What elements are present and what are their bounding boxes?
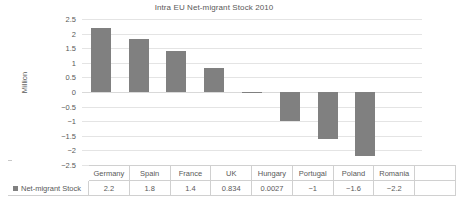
bar-slot: [309, 19, 347, 165]
bar[interactable]: [280, 92, 300, 121]
bar[interactable]: [166, 51, 186, 92]
table-header-cell: Portugal: [292, 166, 333, 181]
data-table: GermanySpainFranceUKHungaryPortugalPolan…: [8, 165, 456, 196]
table-value-cell: −1: [292, 181, 333, 196]
chart-title: Intra EU Net-migrant Stock 2010: [0, 3, 428, 12]
bar[interactable]: [355, 92, 375, 156]
table-header-cell: Romania: [374, 166, 415, 181]
y-tick-label: 2: [36, 29, 76, 38]
bar-slot: [82, 19, 120, 165]
y-tick-label: 0.5: [36, 73, 76, 82]
table-value-cell: 0.0027: [252, 181, 293, 196]
axis-tick-mark: [8, 160, 12, 161]
bar[interactable]: [91, 28, 111, 92]
bar-slot: [346, 19, 384, 165]
legend-label: Net-migrant Stock: [21, 184, 81, 193]
table-header-cell: Poland: [333, 166, 374, 181]
table-header-cell: France: [170, 166, 211, 181]
y-tick-label: −2: [36, 146, 76, 155]
bar-slot: [271, 19, 309, 165]
bar-series: [82, 19, 422, 165]
table-header-cell: Germany: [89, 166, 130, 181]
table-value-cell: 1.4: [170, 181, 211, 196]
table-value-cell: 1.8: [129, 181, 170, 196]
bar-slot: [120, 19, 158, 165]
y-tick-label: 1: [36, 58, 76, 67]
table-header-cell-empty: [415, 166, 456, 181]
table-header-cell: Hungary: [252, 166, 293, 181]
bar[interactable]: [318, 92, 338, 139]
table-value-cell: 0.834: [211, 181, 252, 196]
table-value-cell: −1.6: [333, 181, 374, 196]
bar[interactable]: [204, 68, 224, 92]
y-tick-label: 2.5: [36, 15, 76, 24]
bar-slot: [195, 19, 233, 165]
table-header-cell: Spain: [129, 166, 170, 181]
table-header-cell: UK: [211, 166, 252, 181]
table-header-row: GermanySpainFranceUKHungaryPortugalPolan…: [9, 166, 456, 181]
y-tick-label: −1.5: [36, 131, 76, 140]
table-value-cell: 2.2: [89, 181, 130, 196]
y-tick-label: −0.5: [36, 102, 76, 111]
y-tick-label: 1.5: [36, 44, 76, 53]
table-corner-cell: [9, 166, 89, 181]
y-tick-label: 0: [36, 88, 76, 97]
bar-slot: [233, 19, 271, 165]
y-axis-title: Million: [20, 53, 29, 113]
bar-slot: [158, 19, 196, 165]
y-tick-label: −1: [36, 117, 76, 126]
legend-swatch-icon: [13, 186, 18, 191]
plot-area: [82, 19, 422, 165]
table-value-cell-empty: [415, 181, 456, 196]
bar[interactable]: [129, 39, 149, 92]
legend-entry: Net-migrant Stock: [9, 181, 89, 196]
table-value-row: Net-migrant Stock 2.21.81.40.8340.0027−1…: [9, 181, 456, 196]
table-value-cell: −2.2: [374, 181, 415, 196]
